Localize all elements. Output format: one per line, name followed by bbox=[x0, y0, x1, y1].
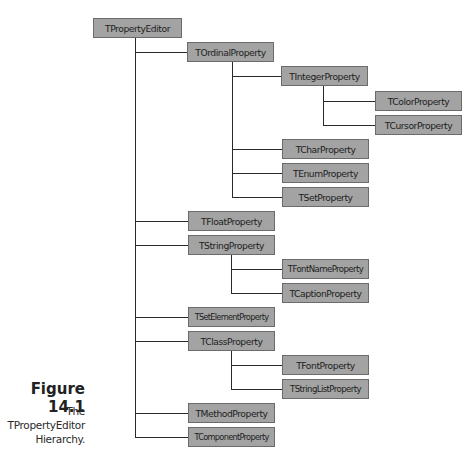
connector-ordinal-trunk bbox=[232, 61, 233, 198]
node-tcolorproperty: TColorProperty bbox=[375, 91, 462, 111]
node-tfontnameproperty: TFontNameProperty bbox=[282, 259, 369, 279]
connector-to-tordinal bbox=[135, 52, 187, 53]
figure-caption-line: Hierarchy. bbox=[0, 432, 85, 446]
node-tclassproperty: TClassProperty bbox=[188, 331, 275, 351]
node-tenumproperty: TEnumProperty bbox=[282, 163, 369, 183]
connector-to-tfont bbox=[231, 365, 282, 366]
node-tfloatproperty: TFloatProperty bbox=[188, 211, 275, 231]
node-tsetelementproperty: TSetElementProperty bbox=[188, 307, 275, 327]
node-tcaptionproperty: TCaptionProperty bbox=[282, 283, 369, 303]
connector-to-tfloat bbox=[135, 221, 188, 222]
connector-to-tfontname bbox=[231, 269, 282, 270]
connector-to-tstring bbox=[135, 245, 188, 246]
node-tstringproperty: TStringProperty bbox=[188, 235, 275, 255]
connector-to-tsetelement bbox=[135, 317, 188, 318]
node-tcharproperty: TCharProperty bbox=[282, 139, 369, 159]
connector-to-tmethod bbox=[135, 413, 188, 414]
node-tintegerproperty: TIntegerProperty bbox=[281, 66, 368, 86]
connector-string-trunk bbox=[231, 254, 232, 294]
connector-root-trunk bbox=[135, 37, 136, 438]
figure-caption-line: The bbox=[0, 404, 85, 418]
node-tcursorproperty: TCursorProperty bbox=[375, 115, 462, 135]
connector-to-tcursor bbox=[323, 125, 375, 126]
node-tpropertyeditor: TPropertyEditor bbox=[93, 18, 182, 38]
connector-integer-trunk bbox=[323, 85, 324, 126]
connector-class-trunk bbox=[231, 350, 232, 390]
node-tordinalproperty: TOrdinalProperty bbox=[187, 42, 274, 62]
node-tmethodproperty: TMethodProperty bbox=[188, 403, 275, 423]
connector-to-tinteger bbox=[232, 76, 281, 77]
node-tsetproperty: TSetProperty bbox=[282, 187, 369, 207]
connector-to-tcolor bbox=[323, 101, 375, 102]
node-tcomponentproperty: TComponentProperty bbox=[188, 427, 275, 447]
connector-to-tcomponent bbox=[135, 437, 188, 438]
connector-to-tcaption bbox=[231, 293, 282, 294]
figure-caption-line: TPropertyEditor bbox=[0, 418, 85, 432]
connector-to-tstringlist bbox=[231, 389, 282, 390]
connector-to-tenum bbox=[232, 173, 282, 174]
connector-to-tchar bbox=[232, 149, 282, 150]
node-tfontproperty: TFontProperty bbox=[282, 355, 369, 375]
connector-to-tclass bbox=[135, 341, 188, 342]
connector-to-tset bbox=[232, 197, 282, 198]
node-tstringlistproperty: TStringListProperty bbox=[282, 379, 369, 399]
figure-caption: The TPropertyEditor Hierarchy. bbox=[0, 404, 85, 446]
